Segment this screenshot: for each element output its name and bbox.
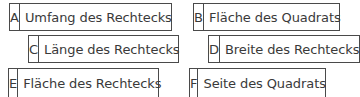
card-label: Fläche des Rechtecks	[18, 69, 161, 97]
card-letter: B	[194, 4, 204, 30]
card-d: D Breite des Rechtecks	[208, 35, 360, 63]
card-letter: D	[209, 36, 220, 62]
card-c: C Länge des Rechtecks	[28, 35, 179, 63]
card-letter: C	[29, 36, 39, 62]
card-letter: E	[9, 69, 18, 97]
card-label: Breite des Rechtecks	[220, 36, 359, 62]
card-label: Umfang des Rechtecks	[20, 4, 172, 30]
card-letter: A	[10, 4, 20, 30]
card-label: Fläche des Quadrats	[204, 4, 341, 30]
card-a: A Umfang des Rechtecks	[9, 3, 172, 31]
card-label: Länge des Rechtecks	[39, 36, 179, 62]
card-letter: F	[190, 69, 198, 97]
card-f: F Seite des Quadrats	[189, 68, 326, 97]
card-label: Seite des Quadrats	[198, 69, 325, 97]
card-e: E Fläche des Rechtecks	[8, 68, 159, 97]
card-b: B Fläche des Quadrats	[193, 3, 340, 31]
